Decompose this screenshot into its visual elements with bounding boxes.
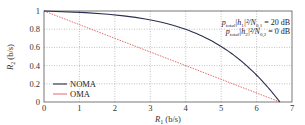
y-tick-label: 0.4 — [29, 61, 40, 71]
x-tick-label: 0 — [42, 103, 46, 113]
y-axis-ticks: 00.20.40.60.81 — [29, 6, 40, 107]
annotation-user2-snr: ptotal|h2|²/N0,2 = 0 dB — [225, 27, 290, 38]
legend-noma-label: NOMA — [70, 79, 97, 89]
x-tick-label: 6 — [254, 103, 258, 113]
x-tick-label: 5 — [219, 103, 223, 113]
x-tick-label: 4 — [184, 103, 189, 113]
y-tick-label: 0 — [36, 97, 40, 107]
legend: NOMA OMA — [53, 79, 97, 99]
x-tick-label: 7 — [290, 103, 294, 113]
legend-oma-label: OMA — [70, 89, 91, 99]
x-axis-label: R1 (b/s) — [154, 114, 181, 125]
y-axis-label: R2 (b/s) — [5, 44, 16, 71]
y-tick-label: 0.6 — [29, 42, 40, 52]
x-tick-label: 1 — [77, 103, 81, 113]
rate-region-chart: 01234567 00.20.40.60.81 R2 (b/s) R1 (b/s… — [0, 0, 305, 125]
y-tick-label: 0.2 — [29, 79, 40, 89]
snr-annotations: ptotal|h1|²/N0,1 = 20 dB ptotal|h2|²/N0,… — [221, 18, 290, 38]
x-tick-label: 2 — [113, 103, 117, 113]
y-tick-label: 1 — [36, 6, 40, 16]
x-axis-ticks: 01234567 — [42, 103, 294, 113]
y-tick-label: 0.8 — [29, 24, 40, 34]
x-tick-label: 3 — [148, 103, 152, 113]
